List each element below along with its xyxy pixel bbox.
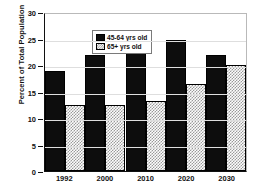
y-tick-mark: [38, 172, 43, 173]
legend-label-series-1: 65+ yrs old: [107, 43, 142, 50]
legend-swatch-icon-series-1: [96, 43, 105, 50]
y-tick-mark: [38, 66, 43, 67]
gridline: [45, 41, 246, 42]
gridline: [45, 67, 246, 68]
y-tick-label: 20: [28, 62, 36, 71]
x-tick-label: 2020: [166, 174, 207, 183]
y-tick-label: 15: [28, 88, 36, 97]
x-tick-label: 2010: [125, 174, 166, 183]
y-tick-label: 30: [28, 9, 36, 18]
y-tick-label: 5: [32, 141, 36, 150]
bar-2030-series-1: [226, 65, 246, 171]
plot-area: 45-64 yrs old 65+ yrs old: [44, 13, 247, 172]
y-axis-tick-labels: 051015202530: [0, 0, 36, 190]
y-tick-label: 10: [28, 115, 36, 124]
y-tick-mark: [38, 93, 43, 94]
gridline: [45, 120, 246, 121]
gridline: [45, 147, 246, 148]
y-tick-mark: [38, 13, 43, 14]
legend: 45-64 yrs old 65+ yrs old: [92, 30, 152, 54]
y-tick-label: 25: [28, 35, 36, 44]
bar-chart: Percent of Total Population 051015202530…: [0, 0, 257, 190]
bar-2010-series-1: [146, 101, 166, 171]
x-tick-label: 2030: [206, 174, 247, 183]
gridline: [45, 94, 246, 95]
y-tick-mark: [38, 119, 43, 120]
legend-item-series-1: 65+ yrs old: [96, 42, 147, 51]
x-tick-label: 2000: [85, 174, 126, 183]
bar-2020-series-1: [186, 84, 206, 171]
x-tick-label: 1992: [44, 174, 85, 183]
y-tick-label: 0: [32, 168, 36, 177]
bar-2000-series-1: [105, 105, 125, 171]
bar-2020-series-0: [166, 40, 186, 171]
y-tick-mark: [38, 146, 43, 147]
bar-2000-series-0: [85, 55, 105, 171]
y-tick-mark: [38, 40, 43, 41]
bar-1992-series-1: [65, 105, 85, 171]
x-axis-tick-labels: 19922000201020202030: [44, 174, 247, 183]
bar-2030-series-0: [206, 55, 226, 171]
